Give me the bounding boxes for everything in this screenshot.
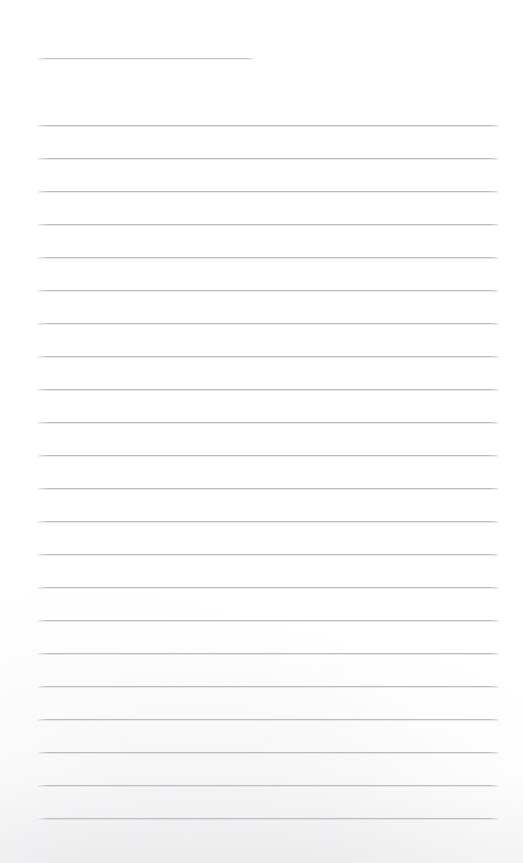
rule-right-tip (490, 322, 498, 325)
rule-left-tip (38, 520, 48, 523)
rule-right-tip (490, 355, 498, 358)
rule-right-tip (490, 553, 498, 556)
rule-right-tip (490, 520, 498, 523)
rule-right-tip (490, 718, 498, 721)
rule-right-tip (490, 619, 498, 622)
rule-right-tip (490, 256, 498, 259)
rule-right-tip (490, 784, 498, 787)
ruled-line (38, 191, 498, 192)
rule-left-tip (38, 751, 48, 754)
ruled-line (38, 521, 498, 522)
rule-left-tip (38, 355, 48, 358)
rule-left-tip (38, 487, 48, 490)
rule-left-tip (38, 817, 48, 820)
rule-left-tip (38, 57, 48, 60)
rule-left-tip (38, 784, 48, 787)
ruled-line (38, 818, 498, 819)
rule-right-tip (490, 652, 498, 655)
ruled-line (38, 224, 498, 225)
rule-left-tip (38, 223, 48, 226)
rule-right-tip (490, 817, 498, 820)
rule-right-tip (490, 421, 498, 424)
rule-right-tip (490, 190, 498, 193)
rule-left-tip (38, 553, 48, 556)
ruled-line (38, 488, 498, 489)
rule-left-tip (38, 190, 48, 193)
rule-right-tip (490, 388, 498, 391)
ruled-line (38, 356, 498, 357)
scanned-page (0, 0, 523, 863)
rule-right-tip (490, 685, 498, 688)
rule-right-tip (490, 289, 498, 292)
ruled-line (38, 455, 498, 456)
rule-right-tip (490, 586, 498, 589)
rule-left-tip (38, 289, 48, 292)
paper-texture (0, 0, 523, 863)
rule-left-tip (38, 619, 48, 622)
ruled-line (38, 125, 498, 126)
rule-right-tip (490, 751, 498, 754)
ruled-line (38, 422, 498, 423)
ruled-line (38, 752, 498, 753)
header-rule (38, 58, 253, 59)
rule-right-tip (490, 157, 498, 160)
rule-right-tip (490, 124, 498, 127)
rule-right-tip (490, 487, 498, 490)
rule-left-tip (38, 322, 48, 325)
rule-right-tip (490, 223, 498, 226)
rule-left-tip (38, 454, 48, 457)
ruled-line (38, 653, 498, 654)
ruled-line (38, 323, 498, 324)
rule-left-tip (38, 718, 48, 721)
rule-left-tip (38, 388, 48, 391)
ruled-line (38, 290, 498, 291)
ruled-line (38, 257, 498, 258)
rule-right-tip (245, 57, 253, 60)
ruled-line (38, 389, 498, 390)
ruled-line (38, 620, 498, 621)
ruled-line (38, 785, 498, 786)
ruled-line (38, 587, 498, 588)
rule-left-tip (38, 124, 48, 127)
rule-left-tip (38, 685, 48, 688)
rule-left-tip (38, 652, 48, 655)
rule-left-tip (38, 421, 48, 424)
rule-left-tip (38, 256, 48, 259)
ruled-line (38, 686, 498, 687)
rule-right-tip (490, 454, 498, 457)
rule-left-tip (38, 157, 48, 160)
ruled-line (38, 554, 498, 555)
ruled-line (38, 158, 498, 159)
rule-left-tip (38, 586, 48, 589)
ruled-line (38, 719, 498, 720)
